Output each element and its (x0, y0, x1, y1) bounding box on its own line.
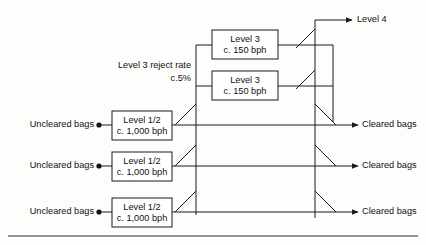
level3-box-2-line2: c. 150 bph (224, 86, 267, 96)
level12-box-3-line2: c. 1,000 bph (117, 213, 168, 223)
process-flow-diagram: Level 3 c. 150 bph Level 3 c. 150 bph Le… (0, 0, 426, 245)
reject-rate-label-line2: c.5% (171, 73, 191, 83)
level3-box-1[interactable]: Level 3 c. 150 bph (212, 30, 278, 59)
level12-box-3[interactable]: Level 1/2 c. 1,000 bph (112, 198, 172, 227)
level4-label: Level 4 (357, 14, 387, 24)
input-label-1: Uncleared bags (30, 119, 95, 129)
level3-box-2-line1: Level 3 (230, 75, 260, 85)
output-label-2: Cleared bags (362, 160, 417, 170)
return-merge-diagonal-3 (315, 191, 336, 212)
level12-box-3-line1: Level 1/2 (123, 202, 160, 212)
reject-collector-group (175, 45, 212, 215)
diagram-canvas: Level 3 c. 150 bph Level 3 c. 150 bph Le… (0, 0, 426, 245)
level3-box-2[interactable]: Level 3 c. 150 bph (212, 71, 278, 100)
return-collector-group (278, 20, 352, 218)
reject-rate-label-line1: Level 3 reject rate (118, 60, 191, 70)
output-label-3: Cleared bags (362, 206, 417, 216)
level12-box-2-line2: c. 1,000 bph (117, 167, 168, 177)
output-label-1: Cleared bags (362, 119, 417, 129)
return-merge-diagonal-2 (315, 145, 336, 166)
level12-box-2-line1: Level 1/2 (123, 156, 160, 166)
level12-box-1-line1: Level 1/2 (123, 115, 160, 125)
reject-tap-diagonal-2 (175, 145, 196, 166)
level12-box-1-line2: c. 1,000 bph (117, 126, 168, 136)
reject-tap-diagonal-3 (175, 191, 196, 212)
reject-tap-diagonal-1 (175, 104, 196, 125)
level12-box-1[interactable]: Level 1/2 c. 1,000 bph (112, 111, 172, 140)
level3-box-1-line1: Level 3 (230, 34, 260, 44)
input-label-3: Uncleared bags (30, 206, 95, 216)
input-label-2: Uncleared bags (30, 160, 95, 170)
level12-box-2[interactable]: Level 1/2 c. 1,000 bph (112, 152, 172, 181)
level3-box-1-line2: c. 150 bph (224, 45, 267, 55)
